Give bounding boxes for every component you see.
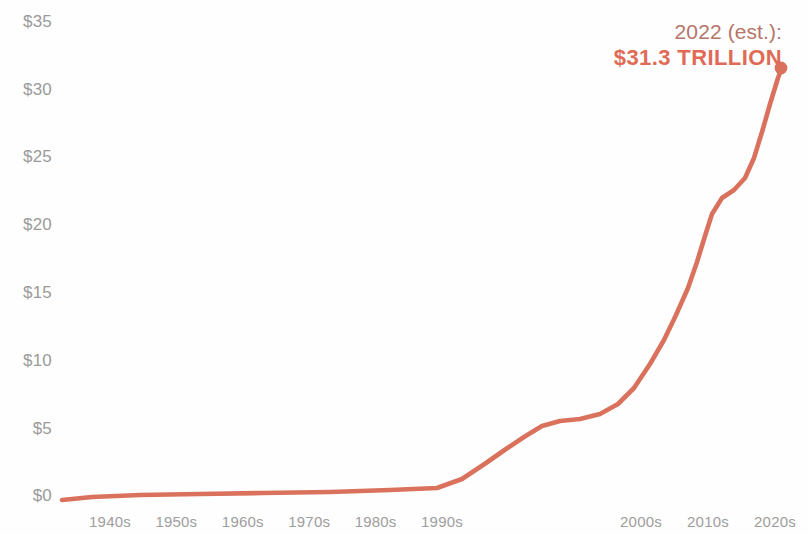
debt-line-path — [62, 70, 781, 500]
x-axis-tick-label: 1970s — [288, 513, 330, 530]
endpoint-callout-annotation: 2022 (est.): $31.3 TRILLION — [614, 20, 782, 71]
x-axis-tick-label: 2000s — [620, 513, 662, 530]
x-axis-tick-label: 1990s — [421, 513, 463, 530]
x-axis-tick-label: 1960s — [222, 513, 264, 530]
x-axis-tick-label: 2020s — [754, 513, 796, 530]
x-axis-tick-label: 1940s — [89, 513, 131, 530]
x-axis-tick-label: 2010s — [687, 513, 729, 530]
line-chart-plot — [0, 0, 808, 534]
x-axis-tick-label: 1980s — [355, 513, 397, 530]
x-axis-tick-label: 1950s — [155, 513, 197, 530]
chart-container: $35 $30 $25 $20 $15 $10 $5 $0 2022 (est.… — [0, 0, 808, 534]
callout-year-label: 2022 (est.): — [614, 20, 782, 45]
callout-value-label: $31.3 TRILLION — [614, 45, 782, 71]
